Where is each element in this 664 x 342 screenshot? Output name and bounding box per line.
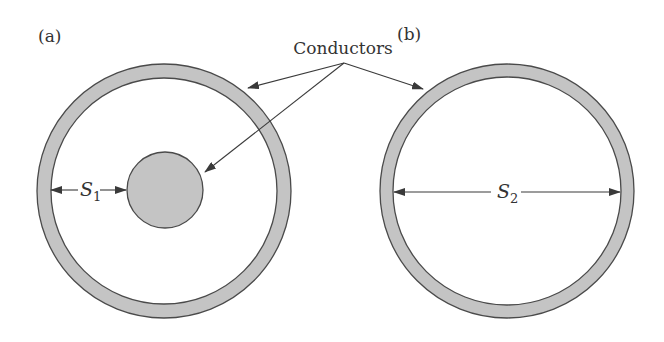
callout-arrow-ring-b — [344, 63, 423, 89]
panel-a-inner-conductor — [127, 152, 203, 228]
conductors-label: Conductors — [293, 38, 392, 58]
callout-arrow-outer-ring-a — [248, 63, 344, 88]
conductors-diagram: (a) (b) Conductors S1 S2 — [0, 0, 664, 342]
panel-label-b: (b) — [397, 24, 421, 44]
panel-label-a: (a) — [38, 26, 61, 46]
